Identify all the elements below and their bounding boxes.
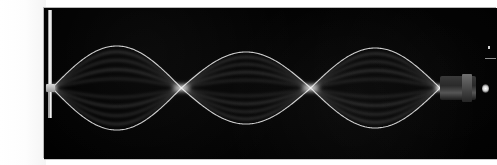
standing-wave-traces [44, 8, 497, 159]
driver-wire [488, 46, 490, 49]
vibrator-edge [462, 74, 472, 102]
wave-curve [52, 79, 440, 88]
wave-node-glow [172, 84, 190, 92]
specular-highlight [482, 84, 489, 93]
scale-tick-mark [485, 58, 496, 59]
wave-curve [52, 60, 440, 88]
wave-curve-group [52, 46, 440, 130]
string-clamp [46, 84, 55, 92]
wave-curve [52, 88, 440, 97]
wave-curve [52, 88, 440, 116]
photograph-frame: Vibrating string standing wave Long-expo… [44, 8, 497, 159]
photograph-canvas: Vibrating string standing wave Long-expo… [44, 8, 497, 159]
paper-margin [0, 0, 46, 165]
support-post-lower [49, 92, 52, 118]
page-root: Vibrating string standing wave Long-expo… [0, 0, 497, 165]
wave-node-glow [302, 84, 320, 92]
